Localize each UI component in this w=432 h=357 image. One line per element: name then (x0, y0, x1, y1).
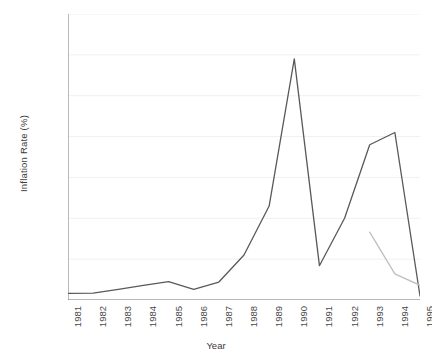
plot-svg (68, 14, 420, 300)
x-axis-title: Year (0, 340, 432, 351)
axis-lines (68, 14, 420, 300)
plot-area (68, 14, 420, 300)
line-chart: Inflation Rate (%) Year 0500100015002000… (0, 0, 432, 357)
y-axis-title: Inflation Rate (%) (18, 84, 29, 224)
gridlines (68, 14, 420, 300)
